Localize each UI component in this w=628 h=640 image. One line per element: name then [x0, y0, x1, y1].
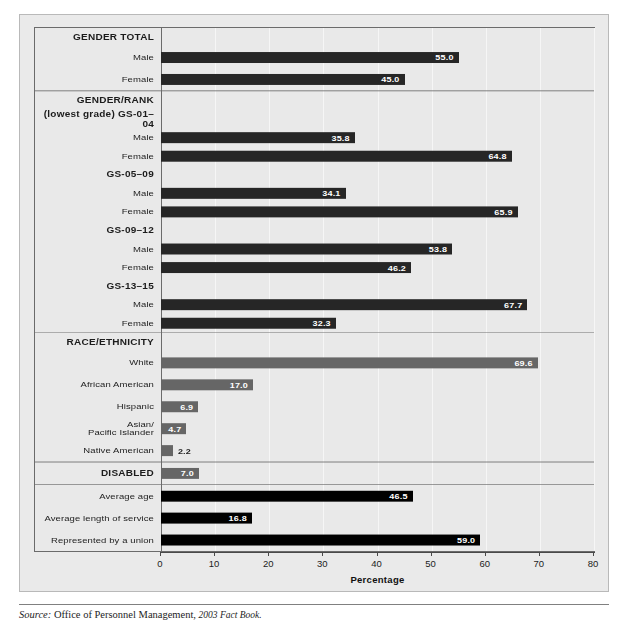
- bar: 55.0: [161, 52, 459, 63]
- section-heading: GENDER TOTAL: [35, 33, 161, 42]
- data-row: Average age46.5: [35, 485, 594, 507]
- bar-value-label: 7.0: [181, 469, 199, 477]
- row-label: Female: [35, 75, 161, 84]
- row-label: Female: [35, 319, 161, 328]
- bar-cell: 59.0: [161, 529, 594, 551]
- bar-cell-empty: [161, 110, 594, 129]
- tick-label-50: 50: [425, 558, 436, 569]
- tick-mark-70: [539, 552, 540, 556]
- tick-label-20: 20: [263, 558, 274, 569]
- data-row: Hispanic6.9: [35, 396, 594, 418]
- source-text: Office of Personnel Management,: [51, 609, 198, 620]
- tick-mark-0: [160, 552, 161, 556]
- bar: 46.5: [161, 491, 413, 502]
- bar-value-label: 65.9: [494, 208, 517, 216]
- bar: 35.8: [161, 132, 355, 143]
- bar: 53.8: [161, 244, 452, 255]
- row-label: Male: [35, 300, 161, 309]
- row-label: Asian/Pacific Islander: [35, 420, 161, 438]
- row-label: Male: [35, 245, 161, 254]
- bar-cell-empty: [161, 333, 594, 352]
- tick-label-60: 60: [479, 558, 490, 569]
- section-heading: GS-05–09: [35, 170, 161, 179]
- data-row: Female45.0: [35, 68, 594, 90]
- x-axis-line: [160, 552, 595, 553]
- bar: 2.2: [161, 445, 173, 456]
- bar-value-label: 64.8: [488, 152, 511, 160]
- group-heading-row: GS-13–15: [35, 277, 594, 296]
- data-row: DISABLED7.0: [35, 462, 594, 484]
- section-list: GENDER TOTALMale55.0Female45.0GENDER/RAN…: [35, 28, 594, 551]
- x-axis-title: Percentage: [160, 574, 595, 585]
- section-heading-row: RACE/ETHNICITY: [35, 333, 594, 352]
- bar: 64.8: [161, 151, 512, 162]
- group-heading-row: GS-05–09: [35, 165, 594, 184]
- data-row: Female46.2: [35, 258, 594, 277]
- tick-label-70: 70: [534, 558, 545, 569]
- bar-value-label: 35.8: [331, 133, 354, 141]
- bar-value-label: 59.0: [457, 536, 480, 544]
- data-row: Female32.3: [35, 314, 594, 333]
- tick-mark-20: [268, 552, 269, 556]
- group-heading-row: GS-09–12: [35, 221, 594, 240]
- data-row: Represented by a union59.0: [35, 529, 594, 551]
- source-publication: 2003 Fact Book.: [199, 610, 262, 620]
- bar-cell: 53.8: [161, 240, 594, 259]
- source-label: Source:: [19, 609, 51, 620]
- tick-mark-50: [431, 552, 432, 556]
- bar: 7.0: [161, 468, 199, 479]
- tick-label-0: 0: [157, 558, 162, 569]
- tick-label-30: 30: [317, 558, 328, 569]
- bar-cell: 6.9: [161, 396, 594, 418]
- section-heading-row: GENDER/RANK: [35, 91, 594, 110]
- section-disabled: DISABLED7.0: [35, 462, 594, 485]
- bar-cell: 69.6: [161, 352, 594, 374]
- bar-cell-empty: [161, 277, 594, 296]
- row-label: Male: [35, 133, 161, 142]
- bar: 34.1: [161, 188, 346, 199]
- bar-cell: 7.0: [161, 462, 594, 484]
- row-label: Average length of service: [35, 514, 161, 523]
- bar-value-label: 45.0: [381, 75, 404, 83]
- bar-value-label: 34.1: [322, 189, 345, 197]
- data-row: Male55.0: [35, 47, 594, 69]
- data-row: Average length of service16.8: [35, 507, 594, 529]
- chart-plot-area: GENDER TOTALMale55.0Female45.0GENDER/RAN…: [34, 27, 595, 552]
- section-gender-total: GENDER TOTALMale55.0Female45.0: [35, 28, 594, 91]
- bar-cell: 67.7: [161, 295, 594, 314]
- section-heading: (lowest grade) GS-01–04: [35, 110, 161, 129]
- row-label: Female: [35, 263, 161, 272]
- row-label: White: [35, 358, 161, 367]
- bar-value-label: 6.9: [180, 403, 198, 411]
- tick-label-10: 10: [209, 558, 220, 569]
- bar: 69.6: [161, 357, 538, 368]
- bar-value-label: 53.8: [429, 245, 452, 253]
- gridline-80: [594, 28, 595, 551]
- bar: 65.9: [161, 206, 518, 217]
- section-race-ethnicity: RACE/ETHNICITYWhite69.6African American1…: [35, 333, 594, 462]
- section-heading: RACE/ETHNICITY: [35, 338, 161, 347]
- bar: 6.9: [161, 401, 198, 412]
- section-other-measures: Average age46.5Average length of service…: [35, 485, 594, 551]
- bar-value-label: 4.7: [168, 424, 186, 432]
- x-axis: 01020304050607080 Percentage: [34, 552, 595, 592]
- section-gender-rank: GENDER/RANK(lowest grade) GS-01–04Male35…: [35, 91, 594, 333]
- bar: 45.0: [161, 74, 405, 85]
- bar-value-label: 55.0: [435, 53, 458, 61]
- bar-cell: 64.8: [161, 147, 594, 166]
- bar-value-label: 67.7: [504, 300, 527, 308]
- tick-mark-30: [322, 552, 323, 556]
- tick-mark-80: [593, 552, 594, 556]
- bar-cell: 17.0: [161, 374, 594, 396]
- row-label: Average age: [35, 492, 161, 501]
- bar-value-label: 46.2: [388, 263, 411, 271]
- section-heading: GENDER/RANK: [35, 96, 161, 105]
- row-label: Female: [35, 207, 161, 216]
- bar: 17.0: [161, 379, 253, 390]
- bar-value-label: 16.8: [229, 514, 252, 522]
- row-label: Male: [35, 53, 161, 62]
- chart-page: GENDER TOTALMale55.0Female45.0GENDER/RAN…: [0, 0, 628, 640]
- bar: 59.0: [161, 535, 480, 546]
- bar-cell: 16.8: [161, 507, 594, 529]
- bar-cell: 32.3: [161, 314, 594, 333]
